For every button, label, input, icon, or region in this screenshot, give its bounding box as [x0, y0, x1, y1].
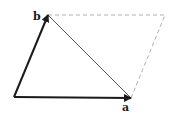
dashed-right-edge — [131, 15, 165, 98]
difference-line — [48, 15, 131, 98]
vector-diagram: a b — [0, 0, 170, 115]
vector-a-arrow — [14, 97, 131, 98]
vector-b-arrow — [14, 15, 48, 97]
vector-a-label: a — [122, 101, 129, 114]
vector-b-label: b — [33, 10, 41, 23]
